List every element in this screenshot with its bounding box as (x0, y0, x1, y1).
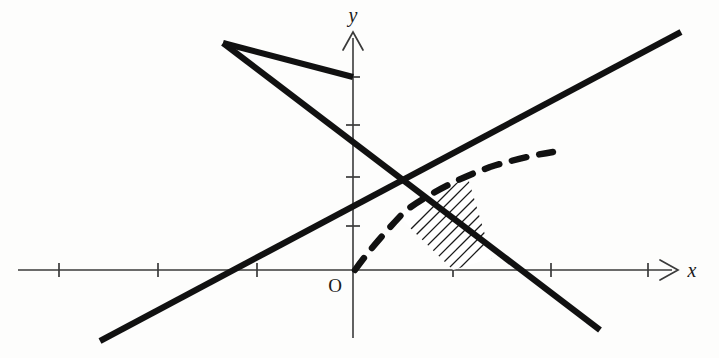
hatch-line (480, 172, 600, 292)
origin-label: O (328, 275, 342, 296)
y-axis-label: y (347, 4, 358, 27)
ascending-line (100, 32, 681, 341)
thick-lines (100, 32, 681, 341)
x-axis-label: x (687, 259, 697, 281)
y-axis: y (343, 4, 363, 338)
coordinate-diagram: x y O (0, 0, 719, 358)
region-outline (397, 178, 492, 270)
descending-line (223, 43, 600, 330)
hatch-line (469, 162, 589, 282)
figure-container: x y O (0, 0, 719, 358)
